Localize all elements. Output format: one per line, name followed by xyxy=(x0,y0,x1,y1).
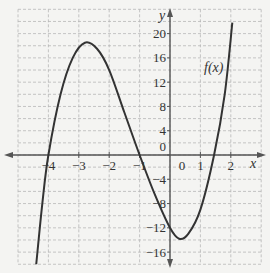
grid-lines xyxy=(18,9,261,264)
y-axis-down-arrow-icon xyxy=(167,259,173,268)
axes xyxy=(4,8,266,268)
x-tick-label: −3 xyxy=(72,158,86,173)
curve-label: f(x) xyxy=(204,60,224,76)
y-tick-label: 4 xyxy=(160,123,167,138)
y-tick-label: 8 xyxy=(160,99,167,114)
y-tick-label: −16 xyxy=(146,245,167,260)
y-tick-label: −12 xyxy=(146,220,166,235)
y-tick-label: −4 xyxy=(152,172,166,187)
y-tick-label: 16 xyxy=(153,50,167,65)
x-tick-label: −4 xyxy=(41,158,55,173)
x-axis-label: x xyxy=(249,156,257,171)
x-tick-label: 0 xyxy=(179,158,186,173)
x-tick-label: 2 xyxy=(228,158,235,173)
y-axis-up-arrow-icon xyxy=(167,8,173,17)
y-tick-label: 20 xyxy=(153,26,166,41)
function-graph: −4−3−2−1120201612840−4−8−12−16 f(x) x y xyxy=(0,0,270,273)
y-axis-label: y xyxy=(157,8,166,23)
x-tick-label: −2 xyxy=(102,158,116,173)
y-tick-label: 0 xyxy=(160,139,167,154)
x-axis-left-arrow-icon xyxy=(4,152,13,158)
y-tick-label: 12 xyxy=(153,75,166,90)
x-tick-label: 1 xyxy=(197,158,204,173)
